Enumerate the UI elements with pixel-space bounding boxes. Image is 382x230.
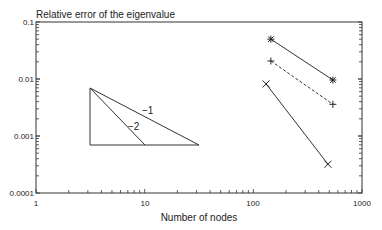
x-tick-label: 1	[34, 199, 39, 208]
series-star	[267, 36, 336, 84]
series-plus	[267, 57, 336, 107]
x-axis	[36, 189, 362, 193]
x-axis-label: Number of nodes	[161, 212, 238, 223]
plot-frame	[36, 22, 362, 193]
slope-label-minus2: −2	[128, 121, 140, 132]
y-tick-label: 0.001	[14, 132, 35, 141]
y-axis	[36, 22, 362, 193]
x-tick-label: 10	[141, 199, 150, 208]
slope-label-minus1: −1	[142, 105, 154, 116]
x-tick-label: 1000	[353, 199, 371, 208]
y-tick-label: 0.0001	[10, 189, 35, 198]
y-tick-label: 0.1	[23, 18, 35, 27]
series-cross	[263, 80, 332, 167]
data-series	[263, 36, 337, 168]
y-tick-label: 0.01	[18, 75, 34, 84]
chart-title: Relative error of the eigenvalue	[36, 9, 175, 20]
x-tick-label: 100	[246, 199, 260, 208]
chart: Relative error of the eigenvalue 1 10 10…	[0, 0, 382, 230]
slope-triangle	[90, 88, 199, 145]
